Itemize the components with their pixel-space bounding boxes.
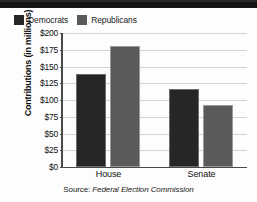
bar-senate-democrats — [169, 89, 199, 167]
y-tick-label-100: $100 — [24, 96, 58, 105]
y-tick-label-75: $75 — [24, 113, 58, 122]
x-category-label-senate: Senate — [155, 169, 248, 180]
bar-series-group — [62, 33, 247, 167]
page-top-rule — [0, 0, 257, 8]
y-tick-label-175: $175 — [24, 46, 58, 55]
plot-area — [62, 33, 247, 167]
y-tick-label-125: $125 — [24, 79, 58, 88]
bar-house-democrats — [76, 74, 106, 167]
x-category-label-house: House — [62, 169, 155, 180]
source-prefix: Source: — [63, 185, 92, 194]
x-axis-category-labels: HouseSenate — [62, 169, 247, 182]
y-tick-label-0: $0 — [24, 163, 58, 172]
legend-label-democrats: Democrats — [28, 16, 68, 25]
y-tick-label-25: $25 — [24, 146, 58, 155]
bar-house-republicans — [110, 46, 140, 167]
legend-label-republicans: Republicans — [91, 16, 137, 25]
bar-chart-figure: Democrats Republicans Contributions (in … — [0, 0, 257, 202]
gridline-0 — [62, 167, 247, 168]
source-note: Source: Federal Election Commission — [0, 185, 257, 195]
y-axis-tick-labels: $200$175$150$125$100$75$50$25$0 — [24, 33, 58, 167]
legend-swatch-republicans — [77, 15, 87, 25]
bar-senate-republicans — [203, 105, 233, 167]
y-tick-label-50: $50 — [24, 130, 58, 139]
source-agency-name: Federal Election Commission — [92, 185, 193, 194]
legend-item-republicans: Republicans — [77, 15, 137, 25]
y-tick-label-150: $150 — [24, 63, 58, 72]
y-tick-label-200: $200 — [24, 29, 58, 38]
